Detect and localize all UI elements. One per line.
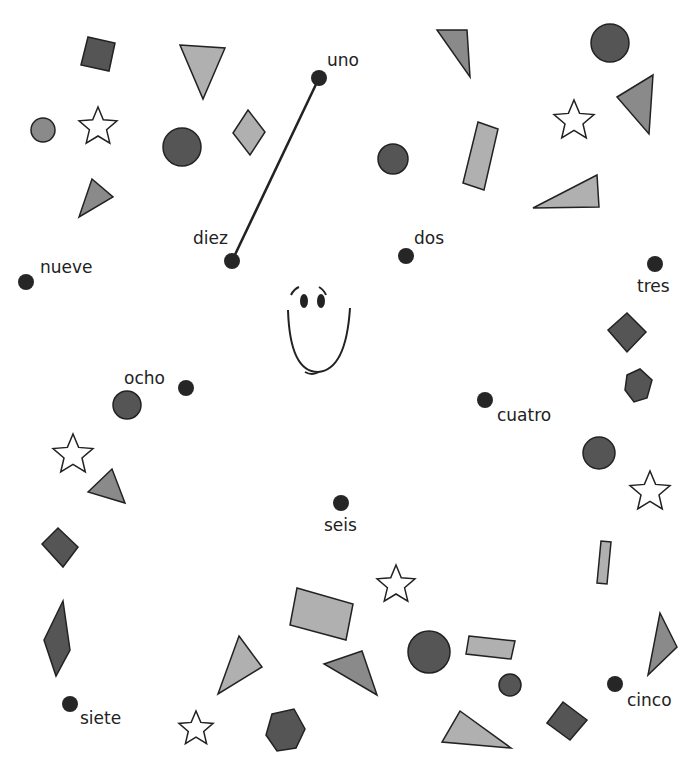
circle-shape [163,128,201,166]
hexagon-shape [625,369,652,402]
dot-label-nueve: nueve [40,257,93,277]
star-shape [554,100,594,138]
circle-shape [591,24,629,62]
dot-nueve[interactable] [18,274,34,290]
circle-shape [499,674,521,696]
triangle-shape [79,179,113,217]
triangle-shape [88,469,125,503]
shapes-canvas [0,0,691,758]
dot-label-siete: siete [80,708,121,728]
dot-siete[interactable] [62,696,78,712]
circle-shape [408,631,450,673]
dot-label-tres: tres [637,276,670,296]
triangle-shape [617,75,653,134]
circle-shape [583,437,615,469]
star-shape [179,711,213,744]
dot-seis[interactable] [333,495,349,511]
star-shape [53,434,93,472]
circle-shape [31,118,55,142]
triangle-shape [648,613,677,675]
worksheet: unodostrescuatrocincoseissieteochonueved… [0,0,691,758]
circle-shape [378,144,408,174]
square-shape [81,37,115,71]
connecting-line [232,78,319,261]
dot-ocho[interactable] [178,380,194,396]
dot-label-dos: dos [414,228,444,248]
diamond-shape [608,313,646,352]
dot-label-diez: diez [193,228,228,248]
triangle-shape [324,651,377,695]
dot-label-ocho: ocho [124,368,165,388]
dot-label-seis: seis [324,515,357,535]
dot-label-cuatro: cuatro [497,405,551,425]
triangle-shape [533,175,599,208]
diamond-shape [44,601,70,676]
star-shape [79,107,117,143]
rect-shape [466,636,515,659]
hexagon-shape [266,709,305,751]
triangle-shape [437,30,470,77]
dot-uno[interactable] [311,70,327,86]
triangle-shape [218,636,262,694]
dot-diez[interactable] [224,253,240,269]
dot-label-uno: uno [327,50,359,70]
rect-shape [290,588,353,640]
rect-shape [597,541,611,584]
triangle-shape [180,45,225,99]
dot-label-cinco: cinco [627,690,672,710]
rect-shape [463,122,498,190]
star-shape [630,471,670,509]
circle-shape [113,391,141,419]
diamond-shape [233,110,265,155]
dot-cinco[interactable] [607,676,623,692]
dot-cuatro[interactable] [477,392,493,408]
diamond-shape [547,702,587,740]
dot-tres[interactable] [647,256,663,272]
star-shape [377,565,415,601]
dot-dos[interactable] [398,248,414,264]
diamond-shape [42,528,78,567]
smiley-face [288,287,350,374]
triangle-shape [442,711,511,748]
